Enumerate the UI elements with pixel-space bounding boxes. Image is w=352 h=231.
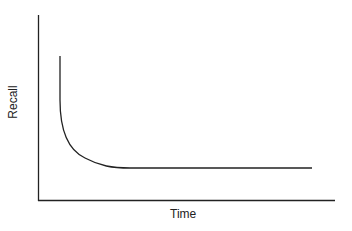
x-axis-label: Time [170,207,196,221]
chart-canvas [0,0,352,231]
y-axis-label: Recall [6,82,22,122]
recall-curve [60,56,312,168]
